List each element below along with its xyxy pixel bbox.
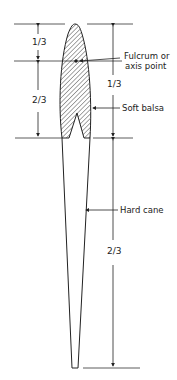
fulcrum-point	[75, 60, 78, 63]
label-hard-cane: Hard cane	[120, 206, 164, 215]
dimension-left-lower: 2/3	[32, 96, 46, 105]
soft-balsa-body	[60, 24, 91, 138]
dimension-right-upper: 1/3	[107, 80, 121, 89]
label-soft-balsa: Soft balsa	[122, 104, 164, 113]
label-fulcrum-line2: axis point	[125, 62, 166, 71]
dimension-left-upper: 1/3	[32, 38, 46, 47]
label-fulcrum-line1: Fulcrum or	[124, 52, 169, 61]
hard-cane-stem	[62, 138, 90, 368]
dimension-right-lower: 2/3	[107, 247, 121, 256]
